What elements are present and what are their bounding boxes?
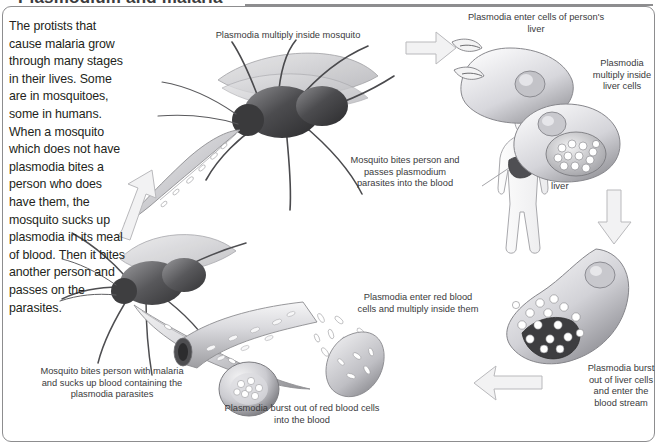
malaria-lifecycle-diagram: Plasmodium and malaria (0, 0, 659, 446)
label-enter-red-cells: Plasmodia enter red blood cells and mult… (357, 292, 479, 315)
liver-cell-multiplying-illustration (508, 96, 626, 188)
intro-paragraph: The protists that cause malaria grow thr… (9, 18, 129, 317)
arrow-right-icon (404, 28, 458, 68)
label-burst-red-cells: Plasmodia burst out of red blood cells i… (222, 403, 382, 426)
label-liver: liver (551, 180, 591, 192)
label-multiply-in-mosquito: Plasmodia multiply inside mosquito (190, 30, 386, 42)
arrow-left-icon (472, 362, 544, 404)
label-multiply-liver: Plasmodia multiply inside liver cells (588, 58, 656, 93)
label-mosquito-bites-person: Mosquito bites person and passes plasmod… (349, 155, 461, 190)
liver-cell-bursting-illustration (500, 245, 640, 370)
label-enter-liver: Plasmodia enter cells of person's liver (466, 12, 606, 35)
label-burst-liver: Plasmodia burst out of liver cells and e… (586, 363, 656, 409)
page-title: Plasmodium and malaria (18, 0, 223, 8)
arrow-down-icon (595, 188, 635, 246)
diagram-title-bar: Plasmodium and malaria (0, 0, 659, 9)
title-rule (245, 4, 653, 6)
label-mosquito-bites-malaria: Mosquito bites person with malaria and s… (37, 366, 187, 401)
